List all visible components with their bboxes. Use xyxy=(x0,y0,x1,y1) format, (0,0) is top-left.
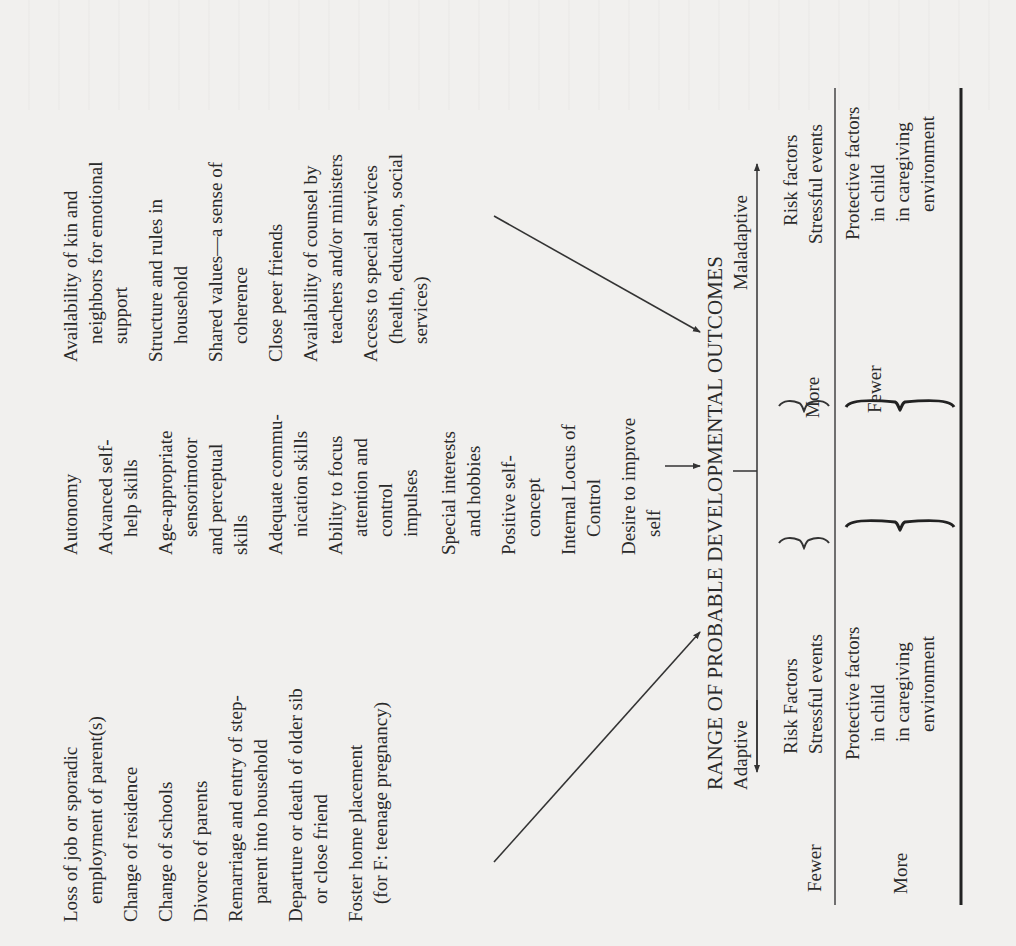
brace-icon xyxy=(846,521,954,530)
arrow-environment-to-outcomes xyxy=(494,216,700,332)
arrow-stressful-to-outcomes xyxy=(494,632,700,862)
figure-lines xyxy=(0,0,1016,946)
brace-icon xyxy=(779,401,829,411)
rotated-figure-page: Loss of job or sporadic employment of pa… xyxy=(0,0,1016,946)
brace-icon xyxy=(779,538,829,548)
brace-icon xyxy=(846,401,954,410)
